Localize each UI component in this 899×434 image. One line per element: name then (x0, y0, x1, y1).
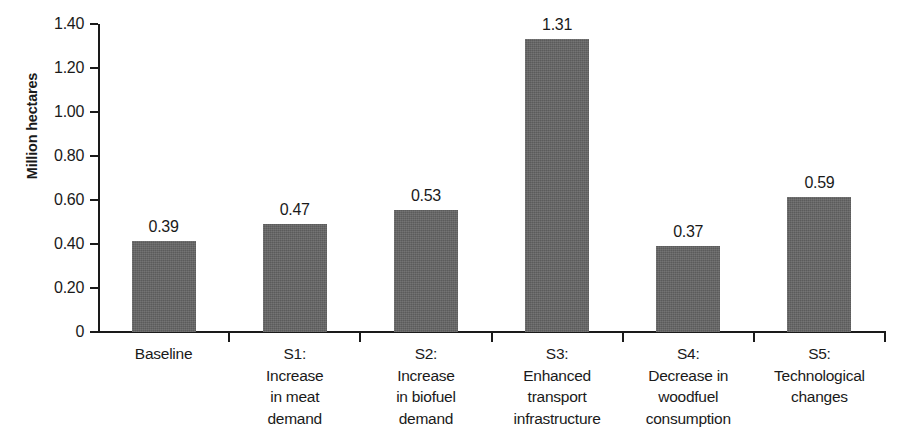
x-axis-category-label: S2:Increasein biofueldemand (360, 343, 491, 429)
y-axis-tick-mark (90, 287, 98, 289)
bar[interactable] (525, 39, 589, 332)
x-axis-category-labels: BaselineS1:Increasein meatdemandS2:Incre… (98, 343, 886, 434)
x-axis-category-label: S4:Decrease inwoodfuelconsumption (623, 343, 754, 429)
x-axis-category-label-line: Technological (754, 365, 885, 387)
bar-value-label: 0.39 (149, 219, 179, 235)
x-axis-tick-mark (491, 333, 493, 342)
y-axis-tick-label: 1.40 (18, 15, 84, 33)
x-axis-category-label-line: S2: (360, 343, 491, 365)
y-axis-tick-labels: 00.200.400.600.801.001.201.40 (14, 0, 84, 434)
bar-group[interactable]: 1.31 (525, 17, 589, 332)
y-axis-tick-label: 0.40 (18, 235, 84, 253)
x-axis-tick-mark (884, 333, 886, 342)
x-axis-category-label-line: transport (492, 386, 623, 408)
x-axis-tick-mark (753, 333, 755, 342)
bar-value-label: 0.47 (280, 202, 310, 218)
x-axis-tick-mark (622, 333, 624, 342)
x-axis-category-label-line: infrastructure (492, 408, 623, 430)
y-axis-tick-mark (90, 243, 98, 245)
x-axis-category-label-line: S3: (492, 343, 623, 365)
x-axis-category-label: Baseline (98, 343, 229, 365)
x-axis-category-label: S3:Enhancedtransportinfrastructure (492, 343, 623, 429)
bar[interactable] (656, 246, 720, 332)
x-axis-category-label: S5:Technologicalchanges (754, 343, 885, 408)
bar-group[interactable]: 0.53 (394, 188, 458, 332)
x-axis-category-label-line: consumption (623, 408, 754, 430)
x-axis-category-label-line: S5: (754, 343, 885, 365)
x-axis-category-label-line: Enhanced (492, 365, 623, 387)
y-axis-tick-label: 1.00 (18, 103, 84, 121)
x-axis-category-label-line: demand (360, 408, 491, 430)
x-axis-tick-mark (359, 333, 361, 342)
x-axis-category-label-line: S4: (623, 343, 754, 365)
bar-group[interactable]: 0.59 (787, 175, 851, 332)
x-axis-category-label-line: woodfuel (623, 386, 754, 408)
y-axis-tick-label: 1.20 (18, 59, 84, 77)
bar[interactable] (263, 224, 327, 332)
bar-group[interactable]: 0.39 (132, 219, 196, 332)
bar-group[interactable]: 0.47 (263, 202, 327, 332)
bar[interactable] (787, 197, 851, 332)
x-axis-category-label-line: in meat (229, 386, 360, 408)
x-axis-category-label-line: demand (229, 408, 360, 430)
bar-value-label: 0.53 (411, 188, 441, 204)
x-axis-category-label-line: Increase (360, 365, 491, 387)
x-axis-category-label-line: S1: (229, 343, 360, 365)
bar-value-label: 0.37 (673, 224, 703, 240)
plot-area: 0.390.470.531.310.370.59 (98, 24, 885, 332)
x-axis-category-label-line: Decrease in (623, 365, 754, 387)
y-axis-tick-label: 0 (18, 323, 84, 341)
x-axis-category-label-line: Increase (229, 365, 360, 387)
y-axis-tick-mark (90, 155, 98, 157)
bar-value-label: 1.31 (542, 17, 572, 33)
y-axis-tick-label: 0.80 (18, 147, 84, 165)
y-axis-tick-mark (90, 111, 98, 113)
x-axis-category-label-line: changes (754, 386, 885, 408)
y-axis-tick-label: 0.20 (18, 279, 84, 297)
y-axis-tick-mark (90, 67, 98, 69)
x-axis-category-label: S1:Increasein meatdemand (229, 343, 360, 429)
bar[interactable] (132, 241, 196, 332)
y-axis-tick-label: 0.60 (18, 191, 84, 209)
y-axis-tick-mark (90, 199, 98, 201)
bar-value-label: 0.59 (804, 175, 834, 191)
bar[interactable] (394, 210, 458, 332)
x-axis-category-label-line: in biofuel (360, 386, 491, 408)
x-axis-tick-mark (228, 333, 230, 342)
bar-group[interactable]: 0.37 (656, 224, 720, 332)
y-axis-tick-mark (90, 23, 98, 25)
x-axis-category-label-line: Baseline (98, 343, 229, 365)
y-axis-tick-mark (90, 331, 98, 333)
bar-chart: Million hectares 00.200.400.600.801.001.… (0, 0, 899, 434)
